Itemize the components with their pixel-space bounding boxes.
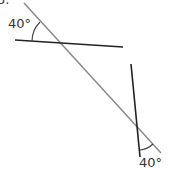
- geometry-diagram: 3. 40° 40°: [0, 0, 171, 169]
- line-b: [131, 64, 140, 157]
- transversal-line: [24, 3, 161, 153]
- line-a: [15, 40, 123, 47]
- angle-arc-2: [140, 144, 153, 150]
- problem-number: 3.: [0, 0, 9, 7]
- angle-arc-1: [32, 22, 40, 41]
- angle-label-1: 40°: [8, 16, 31, 31]
- angle-label-2: 40°: [139, 155, 162, 169]
